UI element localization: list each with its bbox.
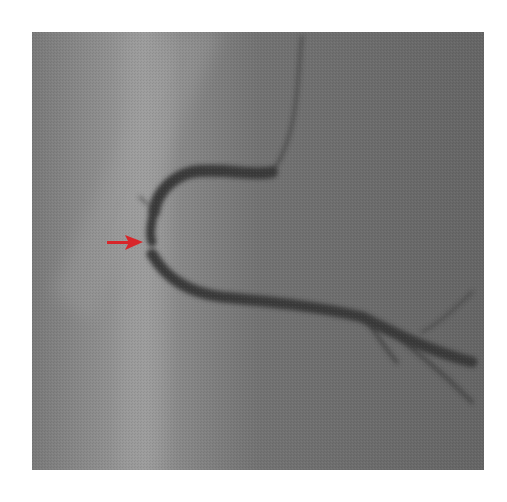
angiogram-image <box>32 32 484 470</box>
angiogram-graphic <box>32 32 484 470</box>
